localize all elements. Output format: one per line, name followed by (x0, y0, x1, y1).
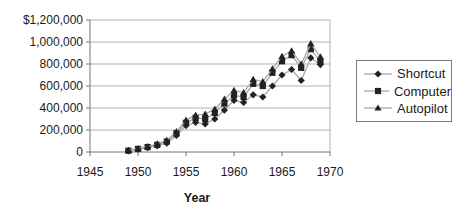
y-tick-label: $1,200,000 (23, 13, 83, 27)
y-tick-label: 600,000 (40, 79, 84, 93)
x-tick-label: 1970 (317, 165, 344, 179)
legend-label: Autopilot (397, 102, 448, 115)
legend-label: Computer (394, 85, 451, 98)
y-tick-label: 200,000 (40, 123, 84, 137)
legend-item-computer: Computer (364, 85, 451, 98)
x-tick-label: 1950 (125, 165, 152, 179)
triangle-marker (288, 47, 295, 53)
triangle-legend-icon (364, 103, 392, 113)
triangle-marker (230, 87, 237, 93)
square-marker (375, 88, 381, 94)
square-legend-icon (364, 86, 389, 96)
triangle-marker (278, 53, 285, 59)
diamond-legend-icon (364, 69, 392, 79)
legend-item-shortcut: Shortcut (364, 67, 451, 80)
diamond-marker (374, 70, 381, 77)
x-tick-label: 1960 (221, 165, 248, 179)
y-tick-label: 400,000 (40, 101, 84, 115)
y-tick-label: 800,000 (40, 57, 84, 71)
triangle-marker (202, 110, 209, 116)
chart-container: $1,200,0001,000,000800,000600,000400,000… (0, 0, 467, 211)
x-tick-label: 1965 (269, 165, 296, 179)
triangle-marker (307, 40, 314, 46)
legend-label: Shortcut (397, 67, 445, 80)
x-tick-label: 1955 (173, 165, 200, 179)
x-tick-label: 1945 (77, 165, 104, 179)
legend-item-autopilot: Autopilot (364, 102, 451, 115)
square-marker (202, 116, 208, 122)
triangle-marker (182, 117, 189, 123)
y-tick-label: 0 (76, 145, 83, 159)
legend: ShortcutComputerAutopilot (356, 60, 452, 122)
y-tick-label: 1,000,000 (30, 35, 84, 49)
x-axis-title: Year (147, 191, 247, 205)
triangle-marker (250, 76, 257, 82)
